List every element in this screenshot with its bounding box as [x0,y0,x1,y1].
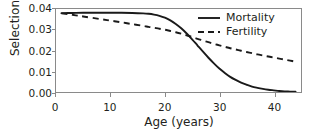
x-tick-label: 40 [268,101,281,113]
x-tick-mark [55,93,56,97]
y-tick-label: 0.03 [18,24,52,34]
x-axis-tick-labels: 010203040 [0,95,312,113]
legend-item: Fertility [198,25,298,38]
x-axis-title: Age (years) [55,115,303,129]
legend-swatch-dashed-line-icon [198,26,220,38]
legend-swatch-solid-line-icon [198,12,220,24]
chart-figure: Selection 0.000.010.020.030.04 010203040… [0,0,312,135]
y-axis-tick-labels: 0.000.010.020.030.04 [16,0,52,135]
x-tick-mark [110,93,111,97]
x-tick-mark [165,93,166,97]
legend-label: Fertility [226,26,267,38]
x-tick-mark [275,93,276,97]
legend-item: Mortality [198,11,298,24]
x-tick-label: 0 [52,101,59,113]
x-tick-label: 30 [213,101,226,113]
y-tick-label: 0.04 [18,3,52,13]
y-tick-label: 0.02 [18,46,52,56]
x-tick-label: 10 [103,101,116,113]
legend-label: Mortality [226,12,275,24]
x-tick-mark [220,93,221,97]
x-tick-label: 20 [158,101,171,113]
y-tick-label: 0.01 [18,67,52,77]
chart-legend: MortalityFertility [198,11,298,39]
